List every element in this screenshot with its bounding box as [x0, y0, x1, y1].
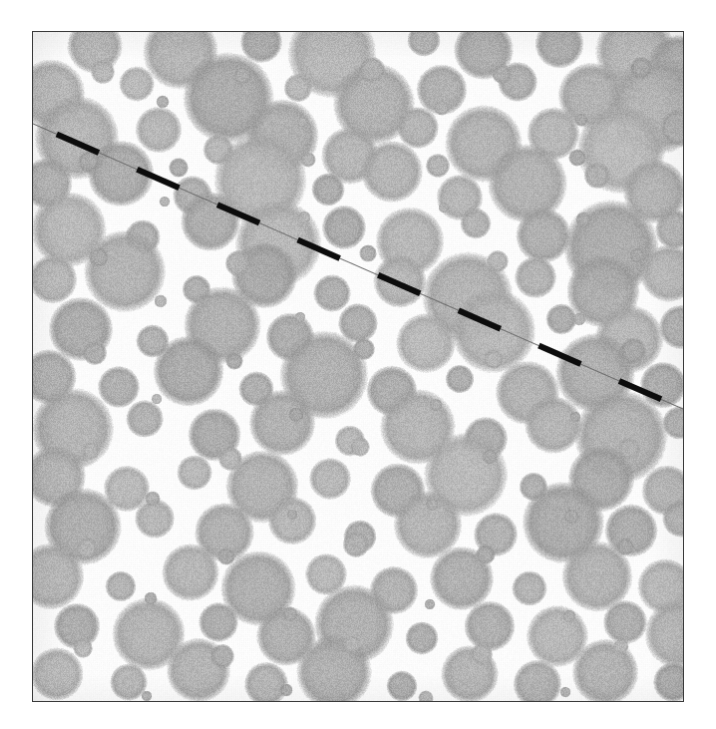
- scale-line-description: diagonal dashed line from upper-left edg…: [0, 0, 1, 1]
- figure-caption: [0, 0, 1, 1]
- particle-field-canvas: [33, 32, 683, 701]
- particle-description: randomly distributed circular gray blobs…: [0, 0, 1, 1]
- micrograph-panel: [32, 31, 684, 702]
- figure-root: randomly distributed circular gray blobs…: [0, 0, 716, 729]
